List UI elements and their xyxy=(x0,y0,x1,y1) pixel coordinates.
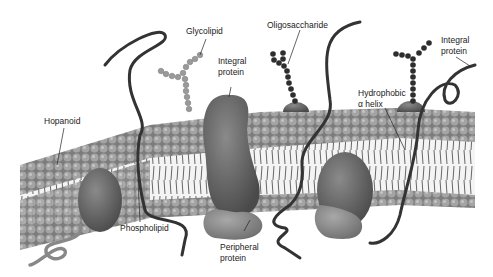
label-integral-protein-right-line2: protein xyxy=(441,46,467,56)
label-peripheral-protein-line2: protein xyxy=(220,253,246,263)
label-hydrophobic-line1: Hydrophobic xyxy=(358,88,406,98)
label-integral-protein-center-line1: Integral xyxy=(218,56,246,66)
label-peripheral-protein-line1: Peripheral xyxy=(220,242,259,252)
membrane-illustration xyxy=(0,0,493,277)
membrane-diagram: Glycolipid Integral protein Oligosacchar… xyxy=(0,0,493,277)
label-oligosaccharide: Oligosaccharide xyxy=(267,20,328,30)
integral-protein-left xyxy=(78,168,122,232)
glycolipid-chain xyxy=(158,52,203,112)
oligosaccharide-chain-1 xyxy=(270,50,298,104)
label-hopanoid: Hopanoid xyxy=(44,116,80,126)
label-hydrophobic-line2: α helix xyxy=(358,99,383,109)
label-glycolipid: Glycolipid xyxy=(186,26,223,36)
label-phospholipid: Phospholipid xyxy=(120,223,169,233)
label-integral-protein-center-line2: protein xyxy=(218,67,244,77)
peripheral-protein xyxy=(203,210,262,240)
label-integral-protein-right-line1: Integral xyxy=(441,35,469,45)
